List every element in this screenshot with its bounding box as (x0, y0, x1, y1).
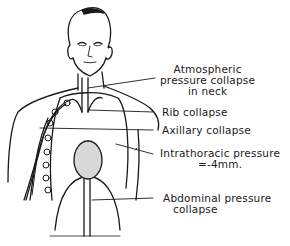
vena-cava (82, 78, 88, 112)
label-rib-collapse: Rib collapse (162, 107, 228, 118)
label-axillary-collapse: Axillary collapse (162, 125, 251, 136)
label-line: Rib collapse (162, 107, 228, 118)
label-line: =-4mm. (160, 159, 280, 170)
label-line: collapse (163, 204, 271, 215)
heart (74, 141, 102, 179)
head-outline (68, 8, 112, 76)
label-intrathoracic-pressure: Intrathoracic pressure =-4mm. (160, 148, 280, 170)
label-line: Axillary collapse (162, 125, 251, 136)
right-shoulder (104, 86, 159, 130)
left-shoulder (8, 88, 78, 182)
label-line: in neck (160, 86, 255, 97)
abdomen-dome (55, 176, 120, 230)
label-atmospheric-pressure-collapse: Atmospheric pressure collapse in neck (160, 64, 255, 97)
label-abdominal-pressure-collapse: Abdominal pressure collapse (163, 193, 271, 215)
